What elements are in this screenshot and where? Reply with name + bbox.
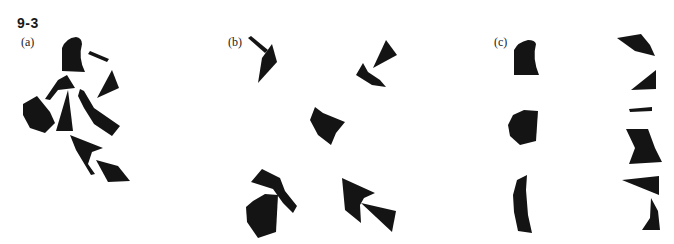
fragment-triangle	[622, 176, 659, 195]
fragment-arrow	[626, 129, 662, 164]
fragment-hexagon	[246, 194, 278, 238]
fragment-triangle	[631, 70, 656, 90]
panel-b	[246, 36, 397, 238]
fragment-tall-triangle	[56, 90, 73, 131]
fragment-arrow	[342, 178, 375, 223]
fragment-bar	[629, 107, 652, 112]
fragment-arch	[310, 107, 345, 145]
fragment-hexagon	[23, 96, 55, 133]
fragment-bar	[88, 51, 109, 62]
fragment-arch	[514, 40, 539, 75]
fragment-triangle	[361, 203, 396, 232]
fragment-figure	[0, 0, 674, 244]
fragment-parallelogram	[617, 34, 655, 56]
fragment-hexagon	[508, 110, 538, 145]
fragment-arch	[62, 37, 85, 72]
fragment-parallelogram	[96, 160, 130, 182]
fragment-triangle	[373, 40, 397, 68]
fragment-triangle-right	[97, 70, 119, 98]
panel-c	[508, 34, 662, 233]
fragment-arrow	[70, 135, 103, 175]
fragment-slanted-quad	[45, 75, 75, 100]
fragment-boot	[356, 63, 386, 87]
fragment-bent	[513, 175, 532, 233]
fragment-quad	[642, 198, 660, 230]
panel-a	[23, 37, 130, 182]
fragment-bar	[248, 36, 268, 53]
